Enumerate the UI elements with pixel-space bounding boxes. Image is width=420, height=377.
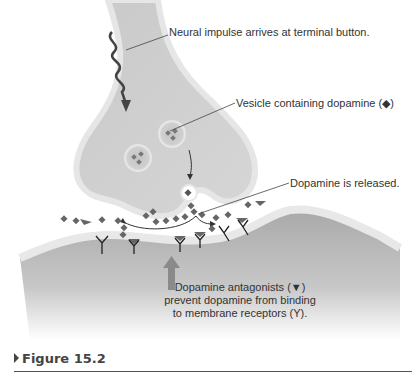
- caption-marker-icon: [14, 353, 19, 363]
- label-dopamine-released: Dopamine is released.: [290, 177, 399, 190]
- antagonist-line-2: prevent dopamine from binding: [150, 294, 330, 307]
- figure-number: Figure 15.2: [22, 351, 106, 366]
- antagonist-line-1: Dopamine antagonists (▼): [150, 281, 330, 294]
- antagonist-line-3: to membrane receptors (Υ).: [150, 307, 330, 320]
- antagonist-explanation: Dopamine antagonists (▼) prevent dopamin…: [150, 281, 330, 320]
- vesicle: [125, 145, 151, 171]
- vesicle: [159, 121, 185, 147]
- caption-divider: [14, 371, 412, 372]
- label-neural-impulse: Neural impulse arrives at terminal butto…: [169, 26, 370, 39]
- figure-caption: Figure 15.2: [14, 351, 106, 366]
- label-vesicle: Vesicle containing dopamine (◆): [236, 97, 394, 110]
- diffusion-arrow-right-icon: [196, 216, 212, 224]
- fusing-vesicle: [181, 185, 197, 201]
